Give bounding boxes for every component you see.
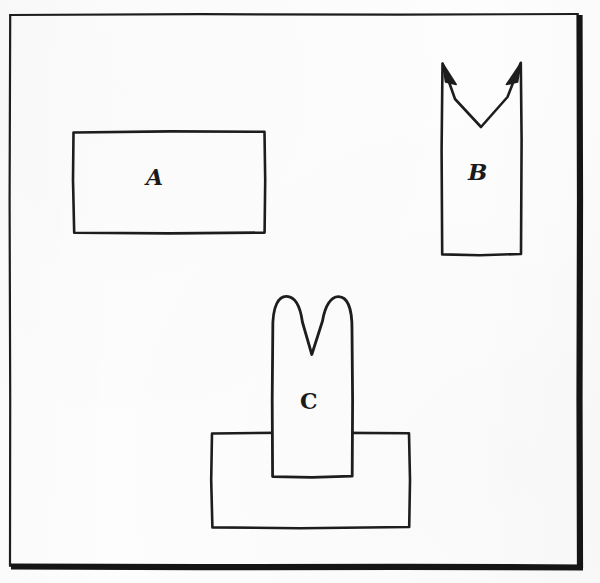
page-border-right (580, 15, 581, 568)
shape-c-label: C (300, 390, 318, 412)
page-border-bottom (11, 567, 583, 568)
shape-b-label: B (468, 160, 487, 183)
shape-c[interactable] (272, 296, 352, 477)
shape-c-outline (272, 296, 352, 477)
shape-a[interactable] (73, 131, 265, 233)
page-border-top (10, 14, 578, 15)
shape-b-notch-spike-left (443, 63, 457, 84)
shape-a-label: A (146, 166, 163, 188)
page-border-left (10, 15, 11, 566)
figure-page: A B C (0, 0, 600, 583)
shape-a-outline (73, 131, 265, 233)
hand-drawn-diagram (0, 0, 600, 583)
